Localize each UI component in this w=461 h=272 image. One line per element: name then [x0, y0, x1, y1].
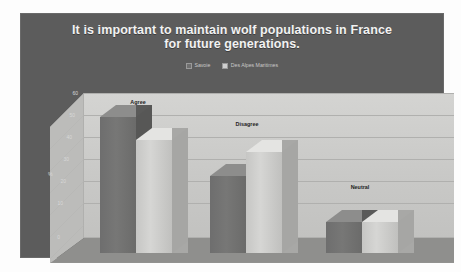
- title-line-2: for future generations.: [42, 37, 422, 51]
- page-title: It is important to maintain wolf populat…: [42, 23, 422, 51]
- category-label-neutral: Neutral: [338, 184, 382, 191]
- y-tick-40: 40: [58, 134, 72, 140]
- bar-front-face: [136, 140, 172, 253]
- bar-side-face: [172, 128, 188, 253]
- chart-legend: Savoie Des Alpes Maritimes: [42, 62, 422, 69]
- bar-neutral-savoie[interactable]: [326, 222, 362, 253]
- legend-label: Des Alpes Maritimes: [231, 62, 278, 69]
- title-line-1: It is important to maintain wolf populat…: [72, 23, 392, 37]
- legend-label: Savoie: [194, 62, 210, 69]
- slide-panel: It is important to maintain wolf populat…: [20, 13, 444, 258]
- y-tick-50: 50: [61, 112, 75, 118]
- bar-front-face: [246, 152, 282, 253]
- bar-front-face: [362, 222, 398, 253]
- bar-disagree-des-alpes-maritimes[interactable]: [246, 152, 282, 253]
- y-tick-30: 30: [55, 156, 69, 162]
- y-tick-20: 20: [52, 178, 66, 184]
- y-tick-0: 0: [46, 234, 60, 240]
- legend-item-des-alpes-maritimes[interactable]: Des Alpes Maritimes: [222, 62, 278, 69]
- y-tick-10: 10: [49, 200, 63, 206]
- y-tick-60: 60: [64, 90, 78, 96]
- bar-side-face: [398, 210, 414, 253]
- legend-swatch-icon: [186, 63, 192, 69]
- bar-front-face: [326, 222, 362, 253]
- y-axis-label: %: [48, 171, 53, 177]
- bar-agree-des-alpes-maritimes[interactable]: [136, 140, 172, 253]
- legend-item-savoie[interactable]: Savoie: [186, 62, 210, 69]
- legend-swatch-icon: [222, 63, 228, 69]
- screenshot-root: It is important to maintain wolf populat…: [0, 0, 461, 272]
- bar-chart: % 60 50 40 30 20 10 0 Agree: [50, 93, 454, 263]
- bar-agree-savoie[interactable]: [100, 117, 136, 253]
- bar-disagree-savoie[interactable]: [210, 176, 246, 253]
- gridline-60: [84, 93, 454, 94]
- bar-neutral-des-alpes-maritimes[interactable]: [362, 222, 398, 253]
- bar-side-face: [282, 140, 298, 253]
- category-label-disagree: Disagree: [222, 121, 272, 128]
- bar-front-face: [100, 117, 136, 253]
- bar-front-face: [210, 176, 246, 253]
